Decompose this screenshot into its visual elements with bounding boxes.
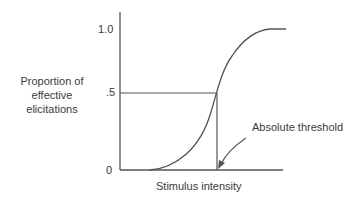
y-axis-label-line3: elicitations	[2, 102, 102, 116]
y-axis-label: Proportion of effective elicitations	[2, 74, 102, 116]
y-axis-label-line2: effective	[2, 88, 102, 102]
annotation-arrow-line	[221, 138, 246, 164]
arrow-head-icon	[218, 160, 225, 169]
x-axis-label: Stimulus intensity	[156, 180, 242, 192]
y-tick-label-1: 1.0	[98, 23, 113, 35]
y-axis-label-line1: Proportion of	[2, 74, 102, 88]
psychometric-curve	[150, 29, 286, 170]
y-tick-label-05: .5	[106, 86, 115, 98]
absolute-threshold-annotation: Absolute threshold	[252, 121, 343, 133]
y-tick-label-0: 0	[106, 164, 112, 176]
